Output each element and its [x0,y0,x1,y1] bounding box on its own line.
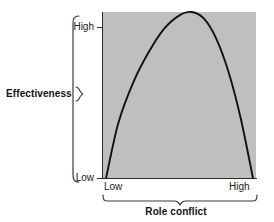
effectiveness-curve [103,12,256,178]
x-tick-label-high: High [229,181,250,192]
x-tick-label-low: Low [104,181,122,192]
curly-brace-horizontal-icon [102,194,258,206]
inverted-u-curve-figure: High Low Effectiveness Low High Role con… [0,0,274,222]
y-axis-title: Effectiveness [6,88,72,99]
x-axis-line [102,178,257,179]
y-tick-low [97,178,103,179]
x-axis-title: Role conflict [0,206,274,217]
curly-brace-pointer-icon [75,86,84,102]
x-axis-title-text: Role conflict [145,206,206,217]
